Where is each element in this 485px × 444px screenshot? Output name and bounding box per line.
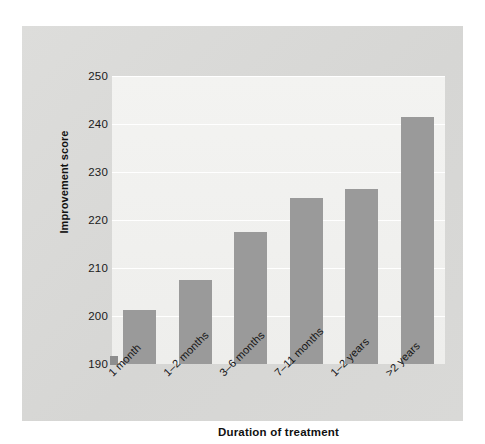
- x-axis-tick-labels: 1 month1–2 months3–6 months7–11 months1–…: [112, 364, 445, 426]
- chart-panel: Improvement score 190200210220230240250 …: [22, 26, 463, 421]
- y-axis-tick-240: 240: [62, 118, 108, 130]
- y-axis-tick-250: 250: [62, 70, 108, 82]
- y-axis-tick-220: 220: [62, 214, 108, 226]
- gridline-250: [112, 76, 445, 77]
- y-axis-tick-200: 200: [62, 310, 108, 322]
- gridline-230: [112, 172, 445, 173]
- y-axis-tick-labels: 190200210220230240250: [58, 76, 108, 364]
- gridline-220: [112, 220, 445, 221]
- gridline-240: [112, 124, 445, 125]
- gridline-200: [112, 316, 445, 317]
- plot-area: [112, 76, 445, 364]
- y-axis-tick-190: 190: [62, 358, 108, 370]
- gridline-210: [112, 268, 445, 269]
- y-axis-tick-230: 230: [62, 166, 108, 178]
- x-axis-title: Duration of treatment: [112, 426, 445, 438]
- y-axis-tick-210: 210: [62, 262, 108, 274]
- chart-figure: Improvement score 190200210220230240250 …: [0, 0, 485, 444]
- bar-6: [401, 117, 434, 364]
